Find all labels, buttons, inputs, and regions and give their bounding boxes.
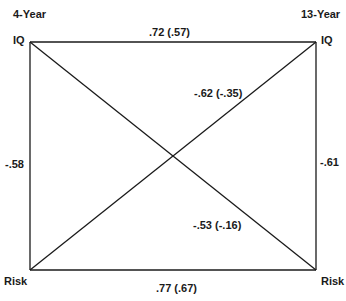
coef-iq-stability: .72 (.57) [149,27,190,38]
path-lines [0,0,346,301]
coef-risk-stability: .77 (.67) [156,283,197,294]
coef-iq4-to-risk13: -.53 (-.16) [193,220,241,231]
coef-risk4-to-iq13: -.62 (-.35) [194,88,242,99]
coef-iq-risk-13yr: -.61 [320,157,339,168]
left-wave-label: 4-Year [13,9,46,20]
node-risk-4yr: Risk [4,276,27,287]
node-risk-13yr: Risk [321,276,344,287]
coef-iq-risk-4yr: -.58 [5,159,24,170]
node-iq-4yr: IQ [13,35,25,46]
right-wave-label: 13-Year [301,9,340,20]
node-iq-13yr: IQ [321,35,333,46]
